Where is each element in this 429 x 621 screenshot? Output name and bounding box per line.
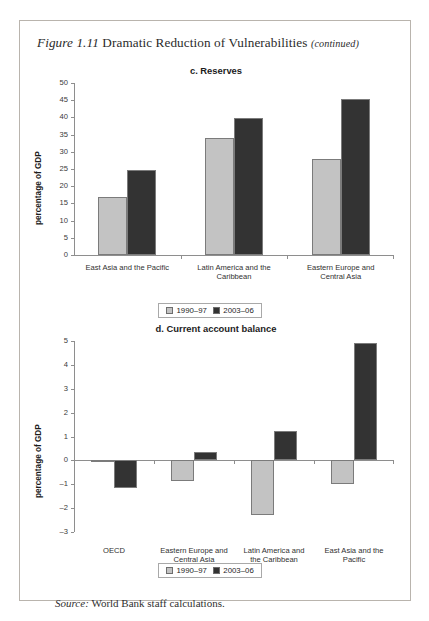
y-axis-tick-label: –3: [40, 527, 68, 536]
legend-item-1990-97: 1990–97: [166, 306, 207, 315]
legend-label-1990-97: 1990–97: [177, 566, 207, 575]
y-axis-tick: [71, 135, 74, 136]
y-axis-tick: [71, 152, 74, 153]
y-axis-tick-label: –1: [40, 479, 68, 488]
x-axis-category-line: East Asia and the Pacific: [70, 263, 185, 272]
y-axis-tick-label: 5: [40, 233, 68, 242]
bar-2003-06: [274, 431, 297, 461]
bar-1990-97: [91, 460, 114, 462]
x-axis-category-line: Eastern Europe and: [150, 546, 238, 555]
x-axis-category-label: Latin America and theCaribbean: [177, 263, 292, 282]
bar-1990-97: [331, 460, 354, 484]
x-axis-end-tick: [393, 460, 394, 464]
bar-1990-97: [205, 138, 234, 255]
legend-label-2003-06: 2003–06: [223, 306, 253, 315]
figure-number: Figure 1.11: [37, 35, 99, 50]
figure-title: Figure 1.11 Dramatic Reduction of Vulner…: [37, 35, 397, 51]
x-axis-group-separator: [287, 255, 288, 259]
x-axis-baseline: [74, 255, 394, 256]
y-axis-tick-label: 2: [40, 408, 68, 417]
y-axis-tick-label: –2: [40, 503, 68, 512]
x-axis-category-label: Eastern Europe andCentral Asia: [283, 263, 398, 282]
y-axis-tick: [71, 341, 74, 342]
chart-c-plot-area: 05101520253035404550East Asia and the Pa…: [74, 83, 394, 255]
chart-current-account-balance: d. Current account balance percentage of…: [20, 323, 412, 573]
bar-1990-97: [312, 159, 341, 255]
bar-1990-97: [251, 460, 274, 515]
y-axis-tick-label: 35: [40, 130, 68, 139]
legend-swatch-light: [166, 567, 173, 574]
y-axis-tick: [71, 221, 74, 222]
chart-d-legend: 1990–97 2003–06: [158, 563, 262, 578]
chart-c-title: c. Reserves: [20, 65, 412, 76]
y-axis-tick: [71, 508, 74, 509]
bar-2003-06: [114, 460, 137, 487]
y-axis-tick: [71, 169, 74, 170]
y-axis-tick-label: 40: [40, 112, 68, 121]
legend-swatch-dark: [213, 567, 220, 574]
x-axis-group-separator: [314, 460, 315, 464]
x-axis-category-line: Latin America and the: [177, 263, 292, 272]
chart-d-title: d. Current account balance: [20, 323, 412, 334]
bar-1990-97: [98, 197, 127, 255]
x-axis-category-line: Pacific: [310, 555, 398, 564]
y-axis-tick-label: 20: [40, 181, 68, 190]
y-axis-tick-label: 10: [40, 216, 68, 225]
bar-1990-97: [171, 460, 194, 480]
x-axis-category-label: Eastern Europe andCentral Asia: [150, 546, 238, 565]
y-axis-tick: [71, 203, 74, 204]
y-axis-tick-label: 0: [40, 250, 68, 259]
y-axis-tick: [71, 413, 74, 414]
x-axis-category-line: OECD: [70, 546, 158, 555]
chart-reserves: c. Reserves percentage of GDP 0510152025…: [20, 65, 412, 320]
figure-box: Figure 1.11 Dramatic Reduction of Vulner…: [19, 20, 411, 601]
figure-continued-note: (continued): [311, 38, 359, 49]
chart-d-plot-area: –3–2–1012345OECDEastern Europe andCentra…: [74, 341, 394, 532]
legend-swatch-light: [166, 307, 173, 314]
y-axis-tick: [71, 186, 74, 187]
chart-c-legend: 1990–97 2003–06: [158, 303, 262, 318]
source-label: Source:: [55, 597, 89, 609]
x-axis-group-separator: [154, 460, 155, 464]
x-axis-category-label: East Asia and the Pacific: [70, 263, 185, 272]
y-axis-tick: [71, 83, 74, 84]
x-axis-category-line: East Asia and the: [310, 546, 398, 555]
x-axis-category-label: East Asia and thePacific: [310, 546, 398, 565]
x-axis-group-separator: [234, 460, 235, 464]
y-axis-tick: [71, 484, 74, 485]
y-axis-tick-label: 45: [40, 95, 68, 104]
y-axis-tick-label: 3: [40, 384, 68, 393]
bar-2003-06: [127, 170, 156, 255]
bar-2003-06: [354, 343, 377, 460]
x-axis-category-line: Central Asia: [283, 272, 398, 281]
y-axis-tick: [71, 117, 74, 118]
y-axis-tick-label: 4: [40, 360, 68, 369]
y-axis-tick: [71, 365, 74, 366]
y-axis-tick-label: 50: [40, 78, 68, 87]
x-axis-category-line: Latin America and: [230, 546, 318, 555]
bar-2003-06: [341, 99, 370, 255]
figure-title-text: Dramatic Reduction of Vulnerabilities: [102, 35, 307, 50]
y-axis-tick-label: 0: [40, 455, 68, 464]
legend-item-1990-97: 1990–97: [166, 566, 207, 575]
y-axis-tick: [71, 532, 74, 533]
y-axis-tick-label: 25: [40, 164, 68, 173]
y-axis-line: [74, 341, 75, 532]
x-axis-end-tick: [393, 255, 394, 259]
y-axis-tick: [71, 100, 74, 101]
legend-item-2003-06: 2003–06: [213, 566, 254, 575]
y-axis-tick: [71, 437, 74, 438]
x-axis-category-line: Eastern Europe and: [283, 263, 398, 272]
y-axis-tick: [71, 238, 74, 239]
legend-item-2003-06: 2003–06: [213, 306, 254, 315]
source-text: World Bank staff calculations.: [91, 597, 224, 609]
y-axis-line: [74, 83, 75, 255]
x-axis-group-separator: [181, 255, 182, 259]
y-axis-tick-label: 1: [40, 432, 68, 441]
x-axis-category-line: Caribbean: [177, 272, 292, 281]
source-note: Source: World Bank staff calculations.: [55, 597, 225, 609]
x-axis-category-label: Latin America andthe Caribbean: [230, 546, 318, 565]
y-axis-tick-label: 15: [40, 198, 68, 207]
x-axis-category-label: OECD: [70, 546, 158, 555]
legend-label-2003-06: 2003–06: [223, 566, 253, 575]
